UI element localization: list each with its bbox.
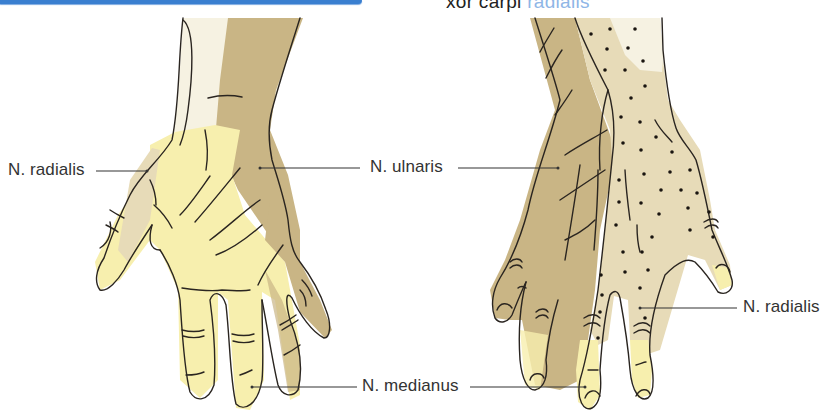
label-n-radialis-dorsal: N. radialis <box>743 297 820 317</box>
label-n-radialis-palmar: N. radialis <box>8 160 85 180</box>
palmar-hand-figure <box>95 18 332 410</box>
label-n-ulnaris: N. ulnaris <box>370 157 443 177</box>
dorsal-hand-figure <box>490 18 732 410</box>
hand-innervation-diagram <box>0 0 823 415</box>
label-n-medianus: N. medianus <box>362 376 459 396</box>
